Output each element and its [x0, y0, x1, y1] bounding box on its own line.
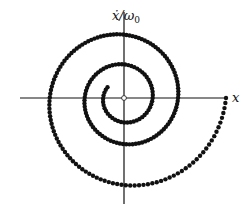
trajectory-dot [167, 175, 171, 179]
trajectory-dot [107, 180, 111, 184]
x-axis-label: x [232, 90, 240, 105]
trajectory-dot [47, 99, 51, 103]
trajectory-dot [150, 181, 154, 185]
trajectory-dot [207, 142, 211, 146]
trajectory-dot [50, 125, 54, 129]
trajectory-dot [191, 160, 195, 164]
trajectory-dot [48, 114, 52, 118]
trajectory-dot [111, 181, 115, 185]
y-axis-label: ẋ/ω0 [112, 8, 140, 25]
trajectory-dot [49, 122, 53, 126]
trajectory-dot [224, 96, 228, 100]
trajectory-dot [216, 125, 220, 129]
trajectory-dot [194, 157, 198, 161]
trajectory-dot [137, 183, 141, 187]
trajectory-dot [48, 95, 52, 99]
trajectory-dot [172, 173, 176, 177]
trajectory-dot [218, 120, 222, 124]
trajectory-dot [163, 177, 167, 181]
trajectory-dot [221, 111, 225, 115]
trajectory-dot [212, 134, 216, 138]
trajectory-dot [124, 183, 128, 187]
trajectory-dot [176, 171, 180, 175]
trajectory-dot [146, 182, 150, 186]
phase-portrait-diagram: x ẋ/ω0 [0, 0, 251, 216]
trajectory-dot [204, 146, 208, 150]
trajectory-dot [128, 183, 132, 187]
trajectory-dot [105, 85, 109, 89]
trajectory-dot [141, 183, 145, 187]
trajectory-dot [223, 101, 227, 105]
trajectory-dot [201, 150, 205, 154]
trajectory-dot [155, 180, 159, 184]
trajectory-dot [47, 110, 51, 114]
trajectory-dot [47, 106, 51, 110]
trajectory-dot [49, 118, 53, 122]
trajectory-dot [184, 166, 188, 170]
spiral-trajectory-dots [47, 32, 228, 188]
trajectory-dot [187, 163, 191, 167]
trajectory-dot [98, 177, 102, 181]
trajectory-dot [95, 175, 99, 179]
trajectory-dot [48, 91, 52, 95]
origin-marker [122, 96, 127, 101]
trajectory-dot [210, 138, 214, 142]
trajectory-dot [102, 179, 106, 183]
trajectory-dot [132, 183, 136, 187]
trajectory-dot [47, 103, 51, 107]
trajectory-dot [214, 130, 218, 134]
trajectory-dot [159, 179, 163, 183]
trajectory-dot [180, 169, 184, 173]
trajectory-dot [222, 106, 226, 110]
trajectory-dot [115, 182, 119, 186]
trajectory-dot [220, 116, 224, 120]
trajectory-dot [198, 154, 202, 158]
trajectory-dot [119, 183, 123, 187]
